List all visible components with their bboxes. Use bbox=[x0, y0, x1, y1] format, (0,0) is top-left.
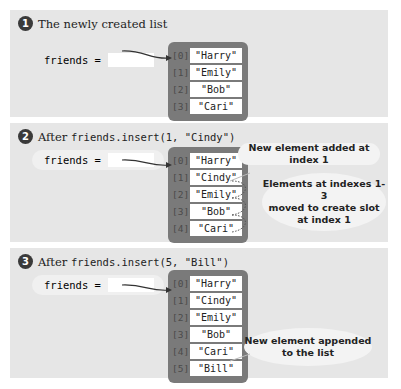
panel-step-2: 2 After friends.insert(1, "Cindy") frien… bbox=[10, 123, 388, 242]
panel-step-3: 3 After friends.insert(5, "Bill") friend… bbox=[10, 248, 388, 378]
reference-arrow-icon bbox=[10, 10, 388, 117]
panel-step-1: 1 The newly created list friends = [0]"H… bbox=[10, 10, 388, 117]
reference-arrow-icon bbox=[10, 248, 388, 378]
arrows-icon bbox=[10, 123, 388, 242]
